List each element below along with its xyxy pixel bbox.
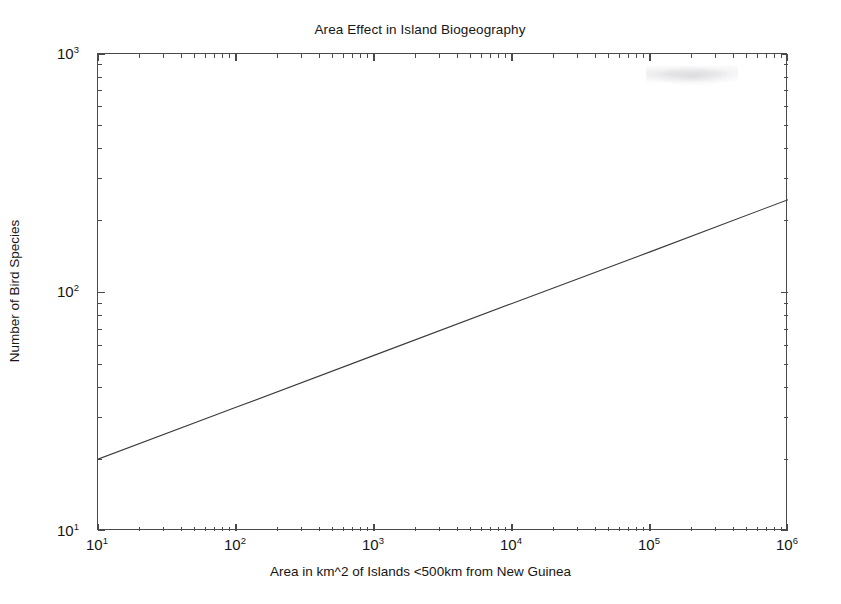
minor-tick-marks xyxy=(98,54,788,531)
series-line-species-area xyxy=(98,200,788,460)
y-tick-label-100: 102 xyxy=(57,284,79,299)
y-tick-label-10: 101 xyxy=(57,523,79,538)
chart-title: Area Effect in Island Biogeography xyxy=(0,22,841,37)
x-tick-exponent-1e6: 6 xyxy=(793,535,798,546)
x-tick-label-1e2: 102 xyxy=(224,537,246,552)
y-tick-mantissa-100: 10 xyxy=(57,283,74,300)
x-axis-label-text: Area in km^2 of Islands <500km from New … xyxy=(270,564,571,579)
y-axis-label: Number of Bird Species xyxy=(7,220,22,363)
x-tick-mantissa-1e4: 10 xyxy=(500,536,517,553)
figure-canvas: Area Effect in Island Biogeography 103 1… xyxy=(0,0,841,604)
x-tick-label-1e5: 105 xyxy=(638,537,660,552)
x-tick-label-1e6: 106 xyxy=(776,537,798,552)
x-tick-exponent-1e4: 4 xyxy=(517,535,522,546)
y-tick-exponent-100: 2 xyxy=(74,282,79,293)
x-tick-label-1e4: 104 xyxy=(500,537,522,552)
y-tick-label-1000: 103 xyxy=(57,46,79,61)
y-tick-mantissa-1000: 10 xyxy=(57,45,74,62)
plot-area xyxy=(97,53,787,530)
x-tick-exponent-1e5: 5 xyxy=(655,535,660,546)
major-tick-marks xyxy=(98,54,788,531)
x-tick-exponent-1e1: 1 xyxy=(103,535,108,546)
y-tick-exponent-10: 1 xyxy=(74,521,79,532)
y-tick-mantissa-10: 10 xyxy=(57,522,74,539)
x-tick-mantissa-1e3: 10 xyxy=(362,536,379,553)
x-tick-mantissa-1e1: 10 xyxy=(86,536,103,553)
x-tick-exponent-1e3: 3 xyxy=(379,535,384,546)
x-tick-exponent-1e2: 2 xyxy=(241,535,246,546)
y-axis-label-text: Number of Bird Species xyxy=(7,220,22,363)
x-tick-mantissa-1e6: 10 xyxy=(776,536,793,553)
y-tick-exponent-1000: 3 xyxy=(74,44,79,55)
chart-title-text: Area Effect in Island Biogeography xyxy=(314,22,525,37)
x-tick-mantissa-1e2: 10 xyxy=(224,536,241,553)
x-tick-label-1e3: 103 xyxy=(362,537,384,552)
plot-svg xyxy=(98,54,788,531)
x-tick-mantissa-1e5: 10 xyxy=(638,536,655,553)
x-axis-label: Area in km^2 of Islands <500km from New … xyxy=(0,564,841,579)
x-tick-label-1e1: 101 xyxy=(86,537,108,552)
